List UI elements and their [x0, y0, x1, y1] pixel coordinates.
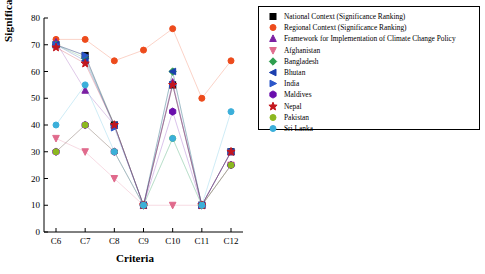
- legend-item: National Context (Significance Ranking): [265, 11, 475, 22]
- legend-item: Sri Lanka: [265, 123, 475, 134]
- legend-item: Pakistan: [265, 112, 475, 123]
- legend-label: Sri Lanka: [284, 123, 313, 134]
- legend-marker-regional-context-icon: [265, 22, 281, 33]
- legend-label: Bhutan: [284, 67, 305, 78]
- svg-text:80: 80: [31, 13, 41, 23]
- svg-text:50: 50: [31, 93, 41, 103]
- legend-label: Maldives: [284, 89, 312, 100]
- plot-area: Significance Ranking Criteria 0102030405…: [0, 0, 250, 274]
- chart-screenshot: Significance Ranking Criteria 0102030405…: [0, 0, 485, 274]
- svg-text:C9: C9: [138, 236, 149, 246]
- legend-item: Afghanistan: [265, 45, 475, 56]
- legend-item: India: [265, 78, 475, 89]
- svg-text:30: 30: [31, 147, 41, 157]
- svg-text:C8: C8: [109, 236, 120, 246]
- legend-label: National Context (Significance Ranking): [284, 11, 405, 22]
- legend-label: Pakistan: [284, 112, 309, 123]
- line-chart-svg: 01020304050607080C6C7C8C9C10C11C12: [0, 0, 250, 274]
- legend-marker-bhutan-icon: [265, 67, 281, 78]
- legend-label: Nepal: [284, 101, 302, 112]
- legend-marker-pakistan-icon: [265, 112, 281, 123]
- legend-marker-india-icon: [265, 78, 281, 89]
- legend-label: Framework for Implementation of Climate …: [284, 33, 456, 44]
- legend-item: Maldives: [265, 89, 475, 100]
- svg-text:10: 10: [31, 200, 41, 210]
- svg-text:0: 0: [36, 227, 41, 237]
- legend-label: Bangladesh: [284, 56, 318, 67]
- legend-item: Framework for Implementation of Climate …: [265, 33, 475, 44]
- legend-label: India: [284, 78, 299, 89]
- svg-text:20: 20: [31, 174, 41, 184]
- legend-item: Nepal: [265, 101, 475, 112]
- svg-text:C6: C6: [51, 236, 62, 246]
- svg-text:40: 40: [31, 120, 41, 130]
- legend-marker-national-context-icon: [265, 11, 281, 22]
- legend-marker-sri-lanka-icon: [265, 123, 281, 134]
- svg-text:C7: C7: [80, 236, 91, 246]
- legend-marker-maldives-icon: [265, 89, 281, 100]
- legend-marker-nepal-icon: [265, 101, 281, 112]
- legend-item: Bangladesh: [265, 56, 475, 67]
- legend-marker-afghanistan-icon: [265, 45, 281, 56]
- svg-text:C12: C12: [223, 236, 238, 246]
- legend-box: National Context (Significance Ranking) …: [258, 6, 480, 130]
- legend-marker-framework-icon: [265, 33, 281, 44]
- legend-label: Afghanistan: [284, 45, 320, 56]
- legend-item: Bhutan: [265, 67, 475, 78]
- legend-marker-bangladesh-icon: [265, 56, 281, 67]
- legend-label: Regional Context (Significance Ranking): [284, 22, 407, 33]
- legend-item: Regional Context (Significance Ranking): [265, 22, 475, 33]
- svg-text:C10: C10: [165, 236, 181, 246]
- svg-text:70: 70: [31, 40, 41, 50]
- svg-text:C11: C11: [194, 236, 209, 246]
- svg-text:60: 60: [31, 67, 41, 77]
